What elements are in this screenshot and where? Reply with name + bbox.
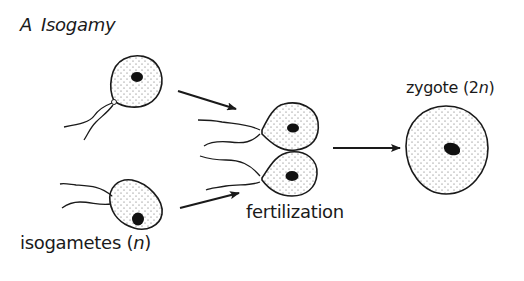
nucleus-icon bbox=[131, 72, 143, 82]
isogamete-bottom bbox=[60, 180, 162, 229]
nucleus-icon bbox=[287, 124, 299, 133]
panel-letter: A bbox=[20, 14, 32, 35]
flagellum-icon bbox=[62, 202, 111, 208]
nucleus-icon bbox=[132, 213, 144, 226]
flagellum-icon bbox=[206, 182, 260, 190]
figure-title: AIsogamy bbox=[20, 14, 115, 35]
flagellum-icon bbox=[64, 103, 112, 127]
arrow-icon bbox=[180, 193, 239, 208]
label-isogametes-text: isogametes ( bbox=[20, 232, 133, 253]
flagellum-icon bbox=[204, 134, 260, 146]
label-zygote-var: n bbox=[479, 78, 489, 97]
label-isogametes-var: n bbox=[133, 232, 144, 253]
isogamete-top bbox=[64, 56, 162, 140]
label-zygote-close: ) bbox=[489, 78, 495, 97]
label-fertilization: fertilization bbox=[246, 201, 344, 222]
title-text: Isogamy bbox=[41, 14, 115, 35]
label-isogametes: isogametes (n) bbox=[20, 232, 151, 253]
nucleus-icon bbox=[286, 171, 299, 181]
label-zygote-text: zygote (2 bbox=[406, 78, 479, 97]
flagellum-icon bbox=[60, 184, 112, 196]
flagellum-icon bbox=[198, 120, 260, 130]
label-isogametes-close: ) bbox=[144, 232, 151, 253]
fertilizing-gametes bbox=[198, 103, 318, 196]
arrow-icon bbox=[178, 91, 236, 109]
zygote bbox=[406, 106, 488, 194]
label-zygote: zygote (2n) bbox=[406, 78, 495, 97]
flagellum-icon bbox=[200, 156, 260, 176]
